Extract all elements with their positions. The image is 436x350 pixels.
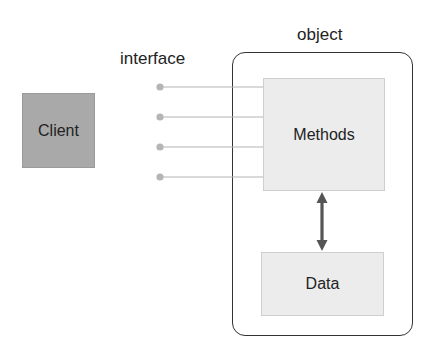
interface-port-icon [156, 173, 163, 180]
interface-port-icon [156, 113, 163, 120]
bidirectional-arrow-icon [317, 192, 328, 251]
interface-connector [156, 113, 263, 120]
interface-connector [156, 143, 263, 150]
interface-connectors [156, 83, 263, 180]
interface-port-icon [156, 83, 163, 90]
interface-connector [156, 83, 263, 90]
diagram-lines [0, 0, 436, 350]
interface-port-icon [156, 143, 163, 150]
interface-connector [156, 173, 263, 180]
